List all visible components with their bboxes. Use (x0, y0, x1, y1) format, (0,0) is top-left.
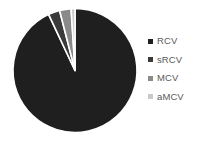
square-marker-icon (148, 76, 153, 81)
legend-item-rcv[interactable]: RCV (148, 36, 202, 46)
legend-label: aMCV (157, 92, 184, 102)
chart-legend: RCV sRCV MCV aMCV (148, 36, 202, 102)
square-marker-icon (148, 57, 153, 62)
legend-label: RCV (157, 36, 177, 46)
pie-svg (0, 0, 140, 141)
pie-chart-figure: RCV sRCV MCV aMCV (0, 0, 202, 141)
pie-slice-group (13, 8, 137, 132)
legend-label: MCV (157, 73, 178, 83)
legend-item-mcv[interactable]: MCV (148, 73, 202, 83)
legend-item-amcv[interactable]: aMCV (148, 92, 202, 102)
legend-label: sRCV (157, 55, 182, 65)
pie-plot-area (0, 0, 140, 141)
square-marker-icon (148, 39, 153, 44)
legend-item-srcv[interactable]: sRCV (148, 55, 202, 65)
square-marker-icon (148, 94, 153, 99)
